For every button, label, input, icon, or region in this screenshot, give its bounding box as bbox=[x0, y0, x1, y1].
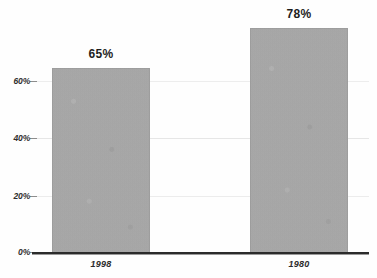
x-axis-label-1998: 1998 bbox=[52, 259, 150, 270]
x-axis-label-1980: 1980 bbox=[250, 259, 348, 270]
y-axis-label-60: 60% bbox=[0, 76, 30, 86]
bar-chart: 60% 40% 20% 0% 65% 78% 1998 1980 bbox=[0, 0, 377, 278]
y-tick-mark-40 bbox=[30, 138, 37, 139]
plot-area: 60% 40% 20% 0% 65% 78% 1998 1980 bbox=[0, 0, 377, 278]
y-axis-label-20: 20% bbox=[0, 191, 30, 201]
y-tick-mark-60 bbox=[30, 81, 37, 82]
bar-1980[interactable] bbox=[250, 28, 348, 253]
y-axis-label-40: 40% bbox=[0, 133, 30, 143]
x-axis-baseline bbox=[32, 252, 369, 254]
y-tick-mark-20 bbox=[30, 196, 37, 197]
value-label-1980: 78% bbox=[250, 8, 348, 21]
y-axis-label-0: 0% bbox=[0, 247, 30, 257]
bar-1998[interactable] bbox=[52, 68, 150, 253]
value-label-1998: 65% bbox=[52, 48, 150, 61]
